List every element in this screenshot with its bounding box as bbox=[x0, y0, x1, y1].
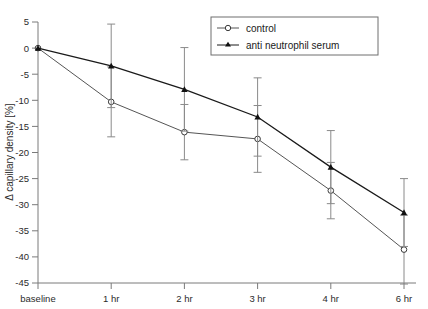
legend-label-anti-neutrophil-serum: anti neutrophil serum bbox=[246, 40, 339, 51]
y-tick-label: 0 bbox=[24, 43, 29, 54]
y-axis-ticks: 50-5-10-15-20-25-30-35-40-45 bbox=[15, 16, 38, 288]
y-tick-label: -30 bbox=[15, 199, 29, 210]
y-axis-title: Δ capillary density [%] bbox=[4, 103, 15, 200]
x-axis-ticks: baseline1 hr2 hr3 hr4 hr6 hr bbox=[20, 283, 412, 304]
y-tick-label: -15 bbox=[15, 121, 29, 132]
x-tick-label: baseline bbox=[20, 293, 55, 304]
x-tick-label: 1 hr bbox=[103, 293, 119, 304]
series-line bbox=[38, 48, 404, 249]
y-tick-label: -35 bbox=[15, 225, 29, 236]
series-control bbox=[35, 45, 408, 284]
y-tick-label: -45 bbox=[15, 277, 29, 288]
x-tick-label: 6 hr bbox=[396, 293, 412, 304]
y-tick-label: -20 bbox=[15, 147, 29, 158]
series-line bbox=[38, 48, 404, 212]
y-tick-label: -5 bbox=[21, 69, 29, 80]
y-tick-label: 5 bbox=[24, 16, 29, 27]
legend-label-control: control bbox=[246, 23, 276, 34]
open-circle-icon bbox=[225, 25, 230, 30]
data-series-layer bbox=[35, 24, 408, 284]
y-tick-label: -10 bbox=[15, 95, 29, 106]
line-chart: 50-5-10-15-20-25-30-35-40-45 baseline1 h… bbox=[0, 0, 428, 309]
x-tick-label: 3 hr bbox=[249, 293, 265, 304]
chart-legend: control anti neutrophil serum bbox=[211, 17, 378, 55]
data-point-marker bbox=[328, 164, 334, 170]
x-tick-label: 4 hr bbox=[323, 293, 339, 304]
y-tick-label: -25 bbox=[15, 173, 29, 184]
x-tick-label: 2 hr bbox=[176, 293, 192, 304]
chart-container: 50-5-10-15-20-25-30-35-40-45 baseline1 h… bbox=[0, 0, 428, 309]
data-point-marker bbox=[401, 209, 407, 215]
y-tick-label: -40 bbox=[15, 251, 29, 262]
data-point-marker bbox=[401, 247, 407, 253]
